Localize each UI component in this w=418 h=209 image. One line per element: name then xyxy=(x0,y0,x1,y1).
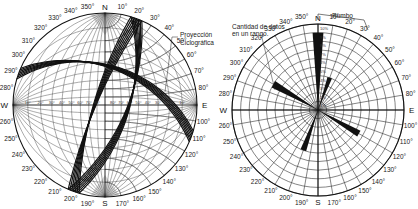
cardinal-n: N xyxy=(102,3,108,12)
azimuth-label: 200° xyxy=(279,194,293,201)
azimuth-label: 250° xyxy=(4,135,18,142)
azimuth-label: 310° xyxy=(22,37,36,44)
azimuth-label: 190° xyxy=(81,200,95,207)
azimuth-label: 40° xyxy=(373,34,383,41)
azimuth-label: 230° xyxy=(239,166,253,173)
azimuth-label: 350° xyxy=(81,3,95,10)
dip-label: 20° xyxy=(38,100,44,105)
dip-label: 50° xyxy=(135,100,141,105)
percent-label: 3% xyxy=(320,86,326,91)
azimuth-label: 300° xyxy=(230,59,244,66)
azimuth-label: 80° xyxy=(406,90,416,97)
azimuth-label: 280° xyxy=(219,90,233,97)
azimuth-label: 240° xyxy=(230,153,244,160)
azimuth-label: 110° xyxy=(400,138,413,145)
azimuth-label: 150° xyxy=(148,188,162,195)
azimuth-label: 210° xyxy=(48,188,62,195)
cardinal-e: E xyxy=(202,101,207,110)
dip-label: 60° xyxy=(127,100,133,105)
azimuth-label: 240° xyxy=(12,151,26,158)
rose-petal xyxy=(301,110,319,151)
azimuth-label: 70° xyxy=(194,67,204,74)
dip-label: 70° xyxy=(118,100,124,105)
azimuth-label: 40° xyxy=(164,24,174,31)
azimuth-label: 100° xyxy=(197,118,211,125)
count-leader xyxy=(262,38,275,90)
azimuth-label: 120° xyxy=(185,151,199,158)
percent-label: 1% xyxy=(320,103,326,108)
azimuth-label: 140° xyxy=(163,178,177,185)
stereonet-cyclographic: 10°20°30°40°50°60°70°80°80°70°60°50°40°3… xyxy=(0,3,214,209)
azimuth-label: 160° xyxy=(132,195,146,202)
dip-label: 10° xyxy=(179,100,185,105)
percent-label: 5% xyxy=(320,69,326,74)
percent-label: 6% xyxy=(320,60,326,65)
percent-label: 2% xyxy=(320,95,326,100)
azimuth-label: 200° xyxy=(64,195,78,202)
azimuth-label: 210° xyxy=(264,187,278,194)
percent-label: 9% xyxy=(320,35,326,40)
azimuth-label: 80° xyxy=(199,84,209,91)
azimuth-label: 350° xyxy=(295,13,309,20)
azimuth-label: 10° xyxy=(117,3,127,10)
dip-label: 40° xyxy=(59,100,65,105)
azimuth-label: 130° xyxy=(175,165,189,172)
azimuth-label: 280° xyxy=(0,84,14,91)
dip-label: 50° xyxy=(68,100,74,105)
dip-label: 70° xyxy=(86,100,92,105)
azimuth-label: 260° xyxy=(0,118,14,125)
azimuth-label: 230° xyxy=(22,165,36,172)
percent-label: 8% xyxy=(320,43,326,48)
percent-label: 10% xyxy=(320,26,328,31)
dip-label: 80° xyxy=(94,100,100,105)
azimuth-label: 250° xyxy=(223,138,237,145)
annotation-label: Proyección xyxy=(180,31,213,39)
percent-label: 4% xyxy=(320,78,326,83)
azimuth-label: 60° xyxy=(394,59,404,66)
parallel xyxy=(105,148,164,176)
dip-label: 30° xyxy=(155,100,161,105)
figure: 10°20°30°40°50°60°70°80°80°70°60°50°40°3… xyxy=(0,0,418,209)
cardinal-w: W xyxy=(0,101,8,110)
azimuth-label: 60° xyxy=(187,51,197,58)
azimuth-label: 100° xyxy=(404,122,418,129)
dip-label: 20° xyxy=(166,100,172,105)
dip-label: 60° xyxy=(77,100,83,105)
azimuth-label: 170° xyxy=(116,200,130,207)
azimuth-label: 50° xyxy=(385,46,395,53)
azimuth-label: 320° xyxy=(34,24,48,31)
azimuth-label: 30° xyxy=(360,25,370,32)
azimuth-label: 20° xyxy=(134,7,144,14)
count-label: Cantidad de datos xyxy=(232,23,286,30)
azimuth-label: 330° xyxy=(48,14,62,21)
azimuth-label: 310° xyxy=(239,46,253,53)
cardinal-e: E xyxy=(409,106,414,115)
azimuth-label: 260° xyxy=(219,122,233,129)
percent-label: 7% xyxy=(320,52,326,57)
azimuth-label: 290° xyxy=(4,67,18,74)
dip-label: 80° xyxy=(110,100,116,105)
azimuth-label: 220° xyxy=(34,178,48,185)
cardinal-s: S xyxy=(315,198,320,207)
azimuth-label: 70° xyxy=(401,74,411,81)
cardinal-s: S xyxy=(102,199,107,208)
rose-diagram: 10%9%8%7%6%5%4%3%2%1%10°20°30°40°50°60°7… xyxy=(219,12,418,207)
strike-label: Rumbo xyxy=(332,12,353,19)
azimuth-label: 340° xyxy=(64,7,78,14)
azimuth-label: 290° xyxy=(223,74,237,81)
dip-label: 10° xyxy=(25,100,31,105)
azimuth-label: 140° xyxy=(372,178,386,185)
azimuth-label: 160° xyxy=(343,194,357,201)
azimuth-label: 130° xyxy=(383,166,397,173)
azimuth-label: 110° xyxy=(193,135,206,142)
dip-label: 30° xyxy=(49,100,55,105)
annotation-label: Ciclográfica xyxy=(180,39,214,47)
cardinal-w: W xyxy=(219,106,227,115)
azimuth-label: 190° xyxy=(295,199,309,206)
count-label: en un rango. xyxy=(232,30,269,38)
azimuth-label: 170° xyxy=(328,199,342,206)
dip-label: 40° xyxy=(145,100,151,105)
azimuth-label: 120° xyxy=(393,153,407,160)
azimuth-label: 220° xyxy=(251,178,265,185)
azimuth-label: 150° xyxy=(358,187,372,194)
